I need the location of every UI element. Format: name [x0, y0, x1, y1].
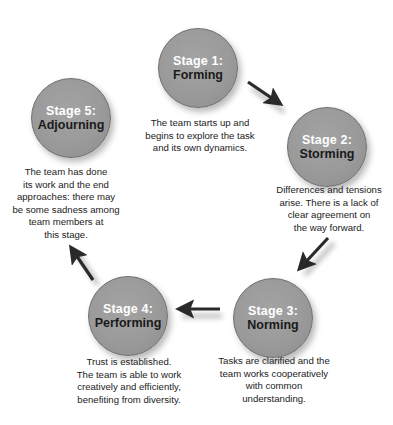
description-line: The team starts up and — [145, 117, 254, 130]
stage-4-name: Performing — [95, 316, 162, 330]
description-line: begins to explore the task — [145, 130, 254, 143]
description-line: and its own dynamics. — [145, 142, 254, 155]
description-line: arise. There is a lack of — [276, 197, 381, 210]
stage-1-name: Forming — [173, 68, 223, 82]
stage-5-circle: Stage 5: Adjourning — [31, 78, 111, 158]
description-line: Trust is established. — [77, 356, 182, 369]
description-line: clear agreement on — [276, 209, 381, 222]
stage-2-number: Stage 2: — [302, 133, 352, 147]
stage-1-description: The team starts up and begins to explore… — [145, 117, 254, 155]
description-line: its work and the end — [12, 179, 119, 192]
arrow-up-left-icon — [74, 252, 93, 280]
description-line: The team is able to work — [77, 369, 182, 382]
description-line: with common — [218, 380, 329, 393]
description-line: Tasks are clarified and the — [218, 355, 329, 368]
description-line: the way forward. — [276, 222, 381, 235]
description-line: team works cooperatively — [218, 368, 329, 381]
stage-1-circle: Stage 1: Forming — [158, 28, 238, 108]
description-line: The team has done — [12, 166, 119, 179]
stage-3-name: Norming — [247, 318, 298, 332]
stage-5-description: The team has done its work and the end a… — [12, 166, 119, 241]
stage-2-description: Differences and tensions arise. There is… — [276, 184, 381, 234]
arrow-down-right-icon — [248, 82, 276, 101]
stage-3-number: Stage 3: — [248, 304, 298, 318]
description-line: this stage. — [12, 229, 119, 242]
stage-4-circle: Stage 4: Performing — [88, 276, 168, 356]
description-line: Differences and tensions — [276, 184, 381, 197]
description-line: creatively and efficiently, — [77, 381, 182, 394]
stage-2-circle: Stage 2: Storming — [287, 107, 367, 187]
stage-4-number: Stage 4: — [103, 302, 153, 316]
stage-1-number: Stage 1: — [173, 54, 223, 68]
stage-4-description: Trust is established. The team is able t… — [77, 356, 182, 406]
stage-3-circle: Stage 3: Norming — [233, 278, 313, 358]
stage-5-name: Adjourning — [38, 118, 105, 132]
stage-3-description: Tasks are clarified and the team works c… — [218, 355, 329, 405]
stage-5-number: Stage 5: — [46, 104, 96, 118]
description-line: be some sadness among — [12, 204, 119, 217]
arrow-down-left-icon — [303, 238, 328, 265]
description-line: team members at — [12, 216, 119, 229]
description-line: benefiting from diversity. — [77, 394, 182, 407]
team-development-cycle-diagram: Stage 1: Forming The team starts up and … — [0, 0, 393, 425]
description-line: understanding. — [218, 393, 329, 406]
stage-2-name: Storming — [300, 147, 355, 161]
description-line: approaches: there may — [12, 191, 119, 204]
